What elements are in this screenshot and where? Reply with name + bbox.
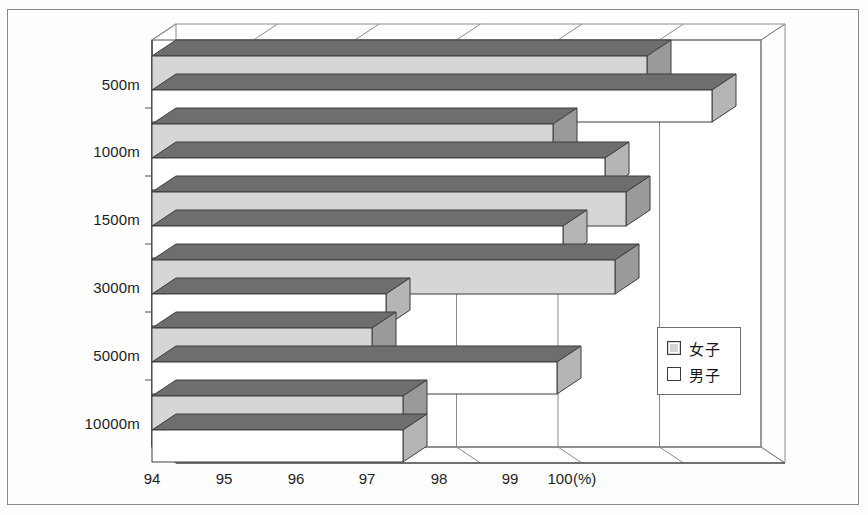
legend-item-female: 女子 <box>667 335 740 361</box>
legend-label-female: 女子 <box>689 338 721 359</box>
x-axis-unit-label: (%) <box>573 470 633 487</box>
legend-item-male: 男子 <box>667 361 740 387</box>
y-axis-label-1000m: 1000m <box>30 143 140 160</box>
y-axis-label-1500m: 1500m <box>30 211 140 228</box>
bar-10000m-male <box>152 414 427 462</box>
legend-swatch-male-icon <box>667 367 681 381</box>
y-axis-ticks <box>145 108 152 380</box>
x-axis-tick-94: 94 <box>126 470 178 487</box>
y-axis-label-5000m: 5000m <box>30 347 140 364</box>
legend-swatch-female-icon <box>667 341 681 355</box>
x-axis-tick-95: 95 <box>198 470 250 487</box>
legend: 女子 男子 <box>657 327 741 395</box>
legend-label-male: 男子 <box>689 364 721 385</box>
y-axis-label-500m: 500m <box>30 76 140 93</box>
bar-group-10000m <box>152 380 427 462</box>
x-axis-tick-98: 98 <box>413 470 465 487</box>
y-axis-label-3000m: 3000m <box>30 279 140 296</box>
x-axis-tick-99: 99 <box>484 470 536 487</box>
x-axis-tick-96: 96 <box>270 470 322 487</box>
x-axis-tick-97: 97 <box>341 470 393 487</box>
y-axis-label-10000m: 10000m <box>30 415 140 432</box>
chart-page: 500m 1000m 1500m 3000m 5000m 10000m 94 9… <box>0 0 868 515</box>
